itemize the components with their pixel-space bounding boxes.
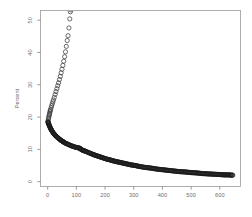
data-point xyxy=(65,38,69,42)
data-point xyxy=(62,59,66,63)
data-point xyxy=(69,8,73,12)
data-point xyxy=(63,55,67,59)
data-point xyxy=(67,26,71,30)
data-series-group xyxy=(46,8,235,178)
data-point xyxy=(55,87,59,91)
y-tick-label: 10 xyxy=(27,146,33,152)
x-tick-label: 200 xyxy=(100,192,110,198)
data-point xyxy=(66,34,70,38)
x-tick-label: 300 xyxy=(129,192,139,198)
series-upper-branch xyxy=(46,8,73,124)
y-tick-label: 20 xyxy=(27,114,33,120)
x-tick-label: 600 xyxy=(215,192,225,198)
y-tick-label: 30 xyxy=(27,82,33,88)
plot-frame xyxy=(41,11,241,187)
data-point xyxy=(61,63,65,67)
y-tick-label: 0 xyxy=(27,180,33,183)
data-point xyxy=(64,44,68,48)
data-point xyxy=(68,17,72,21)
x-tick-label: 100 xyxy=(72,192,82,198)
data-point xyxy=(56,84,60,88)
data-point xyxy=(54,89,58,93)
y-axis-title: Percent xyxy=(14,88,20,108)
scatter-plot-canvas: 01020304050 0100200300400500600 Percent xyxy=(0,0,252,217)
y-tick-label: 50 xyxy=(27,17,33,23)
x-tick-label: 400 xyxy=(158,192,168,198)
data-point xyxy=(53,92,57,96)
chart-figure: 01020304050 0100200300400500600 Percent xyxy=(0,0,252,217)
data-point xyxy=(52,95,56,99)
plot-frame-group xyxy=(41,11,241,187)
y-tick-label: 40 xyxy=(27,49,33,55)
x-axis-ticks: 0100200300400500600 xyxy=(46,187,225,199)
data-point xyxy=(63,50,67,54)
x-tick-label: 0 xyxy=(46,192,49,198)
x-tick-label: 500 xyxy=(186,192,196,198)
series-lower-branch xyxy=(46,120,235,177)
y-axis-ticks: 01020304050 xyxy=(27,17,41,183)
